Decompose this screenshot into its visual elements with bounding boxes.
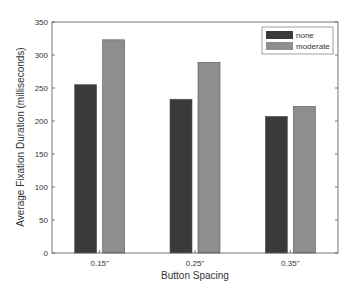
bar-none: [75, 85, 97, 253]
x-tick-label: 0.25": [186, 259, 205, 268]
bar-moderate: [293, 106, 315, 253]
legend-label-moderate: moderate: [296, 42, 330, 51]
y-tick-label: 0: [44, 249, 49, 258]
bars: [75, 40, 316, 253]
y-tick-label: 300: [35, 51, 49, 60]
y-tick-label: 150: [35, 150, 49, 159]
x-tick-label: 0.15": [90, 259, 109, 268]
bar-none: [170, 99, 192, 253]
bar-chart: 050100150200250300350 0.15"0.25"0.35" Bu…: [0, 0, 354, 294]
y-tick-label: 250: [35, 84, 49, 93]
y-axis-label: Average Fixation Duration (milliseconds): [15, 47, 26, 226]
bar-moderate: [103, 40, 125, 253]
y-tick-label: 50: [39, 216, 48, 225]
legend: none moderate: [262, 27, 333, 54]
bar-none: [265, 116, 287, 253]
bar-moderate: [198, 62, 220, 253]
legend-swatch-none: [266, 31, 293, 39]
y-tick-label: 350: [35, 18, 49, 27]
x-axis-label: Button Spacing: [161, 270, 229, 281]
x-tick-label: 0.35": [281, 259, 300, 268]
y-tick-label: 100: [35, 183, 49, 192]
legend-swatch-moderate: [266, 42, 293, 50]
legend-label-none: none: [296, 31, 314, 40]
y-tick-label: 200: [35, 117, 49, 126]
